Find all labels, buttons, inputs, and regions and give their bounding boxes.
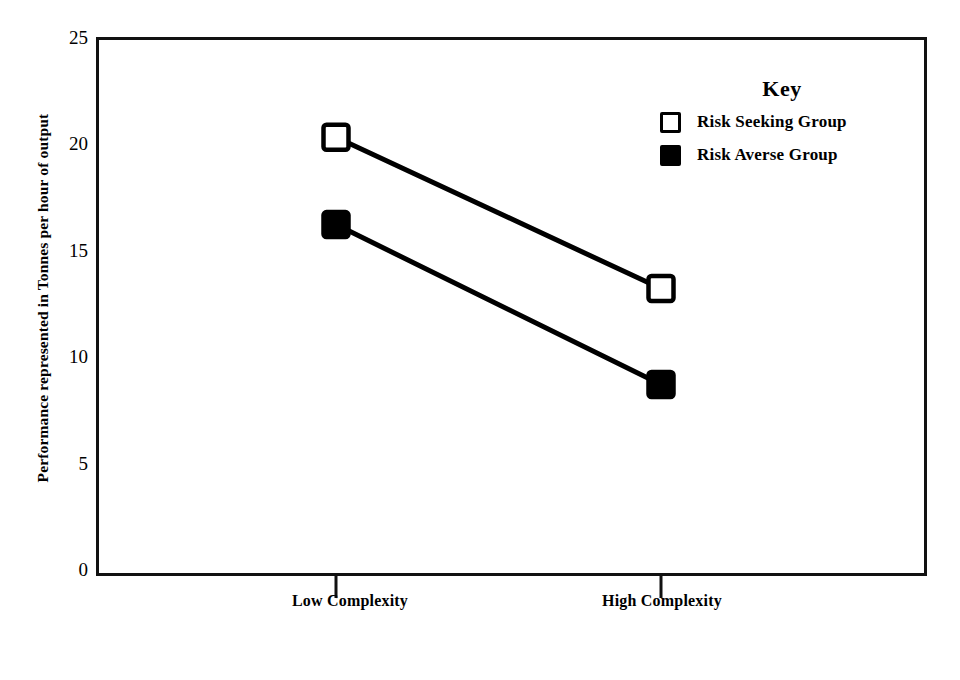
y-tick-label-0: 0	[52, 560, 88, 579]
legend-label-risk-seeking: Risk Seeking Group	[697, 112, 847, 132]
open-square-icon	[660, 112, 681, 133]
legend-item-risk-seeking: Risk Seeking Group	[660, 109, 918, 135]
x-tick-label-high-complexity: High Complexity	[581, 592, 743, 610]
x-tick-label-low-complexity: Low Complexity	[269, 592, 431, 610]
legend-label-risk-averse: Risk Averse Group	[697, 145, 838, 165]
y-tick-label-25: 25	[52, 28, 88, 47]
legend-key: Key Risk Seeking Group Risk Averse Group	[660, 76, 918, 168]
y-tick-label-5: 5	[52, 454, 88, 473]
legend-title: Key	[678, 76, 886, 102]
legend-item-risk-averse: Risk Averse Group	[660, 142, 918, 168]
y-axis-tick-labels: 25 20 15 10 5 0	[48, 0, 88, 680]
y-tick-label-15: 15	[52, 241, 88, 260]
chart-figure: Performance represented in Tonnes per ho…	[0, 0, 960, 680]
clipped-title-text	[96, 0, 866, 3]
filled-square-icon	[660, 145, 681, 166]
y-tick-label-10: 10	[52, 347, 88, 366]
y-tick-label-20: 20	[52, 134, 88, 153]
